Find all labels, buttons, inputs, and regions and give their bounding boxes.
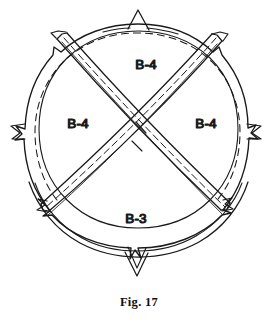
technical-diagram: B-4 B-4 B-4 B-3 [0,0,278,326]
sector-label-left: B-4 [67,116,89,131]
strap-crossing-detail [132,122,146,151]
strap-a-cap-upper-left [57,33,67,39]
sector-label-bottom: B-3 [125,211,147,226]
sector-label-top: B-4 [135,57,157,72]
figure-container: B-4 B-4 B-4 B-3 Fig. 17 [0,0,278,326]
figure-caption: Fig. 17 [0,295,278,310]
diagram-linework: B-4 B-4 B-4 B-3 [11,10,261,276]
sector-label-right: B-4 [195,116,217,131]
tab-top [128,10,149,30]
tab-bottom [125,252,148,276]
strap-b-cap-upper-right [212,34,222,41]
